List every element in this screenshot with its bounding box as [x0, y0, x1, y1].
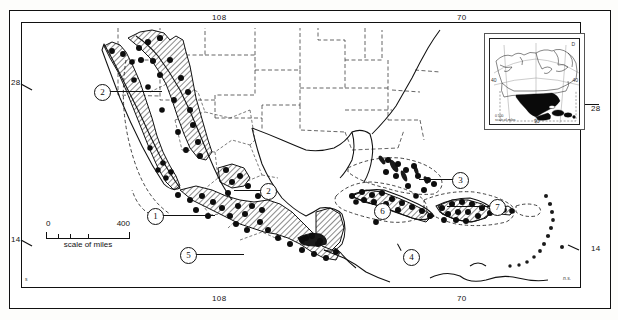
corner-mark-bottom-left: s	[25, 276, 28, 282]
callout-leader-7	[447, 206, 490, 207]
inset-artwork	[490, 39, 580, 125]
inset-frame: 40 40 90 D 0 500 scale of miles	[489, 38, 580, 125]
inset-left-label: 40	[491, 77, 497, 83]
callout-2b[interactable]: 2	[260, 183, 277, 200]
scale-max-label: 400	[117, 219, 130, 228]
scale-caption: scale of miles	[46, 240, 130, 249]
inset-bottom-label: 90	[534, 118, 540, 124]
inset-locator-map: 40 40 90 D 0 500 scale of miles	[484, 33, 585, 130]
callout-leader-3	[419, 179, 453, 180]
map-credit: n.s.	[563, 275, 571, 281]
callout-4[interactable]: 4	[403, 249, 420, 266]
inset-scale-caption-line2: scale of miles	[495, 118, 516, 122]
callout-3[interactable]: 3	[452, 172, 469, 189]
callout-leader-2b	[234, 190, 261, 191]
callout-leader-1	[163, 215, 215, 216]
callout-1[interactable]: 1	[147, 208, 164, 225]
callout-6[interactable]: 6	[374, 203, 391, 220]
distribution-map-figure: 108 70 108 70 28 14 28 14	[0, 0, 618, 320]
inset-leader-line	[585, 104, 599, 105]
scale-min-label: 0	[46, 219, 50, 228]
callout-leader-2	[110, 91, 162, 92]
inset-corner-label: D	[571, 41, 575, 47]
callout-leader-5	[196, 254, 244, 255]
range-polygon-eastern-mexico	[218, 164, 250, 188]
scale-bar-rule	[46, 230, 130, 239]
inset-right-label: 40	[572, 77, 578, 83]
callout-5[interactable]: 5	[180, 247, 197, 264]
callout-7[interactable]: 7	[489, 199, 506, 216]
scale-bar: 0 400 scale of miles	[46, 219, 130, 249]
callout-2[interactable]: 2	[94, 84, 111, 101]
